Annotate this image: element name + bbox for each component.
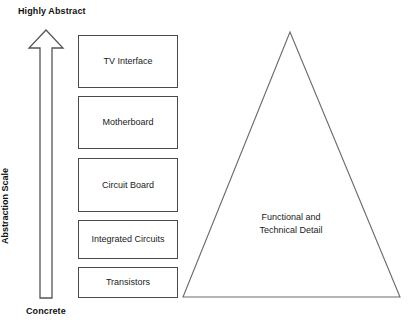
layer-box-label: Circuit Board xyxy=(102,180,154,191)
axis-title-label: Abstraction Scale xyxy=(0,151,11,261)
layer-box-tv-interface[interactable]: TV Interface xyxy=(78,35,178,88)
layer-box-integrated-circuits[interactable]: Integrated Circuits xyxy=(78,220,178,259)
detail-triangle-label-line1: Functional and xyxy=(235,211,347,224)
detail-triangle-shape xyxy=(176,26,408,304)
axis-top-label: Highly Abstract xyxy=(18,6,86,17)
layer-box-label: Motherboard xyxy=(102,117,153,128)
axis-bottom-label: Concrete xyxy=(26,306,66,317)
detail-triangle-label: Functional and Technical Detail xyxy=(235,211,347,237)
layer-box-circuit-board[interactable]: Circuit Board xyxy=(78,158,178,212)
detail-triangle-label-line2: Technical Detail xyxy=(235,224,347,237)
layer-box-transistors[interactable]: Transistors xyxy=(78,267,178,298)
abstraction-scale-diagram: Highly Abstract Concrete Abstraction Sca… xyxy=(0,0,414,331)
layer-box-label: Integrated Circuits xyxy=(91,234,164,245)
layer-box-label: Transistors xyxy=(106,277,150,288)
layer-box-label: TV Interface xyxy=(103,56,152,67)
layer-box-motherboard[interactable]: Motherboard xyxy=(78,96,178,149)
up-arrow-icon xyxy=(26,28,66,300)
